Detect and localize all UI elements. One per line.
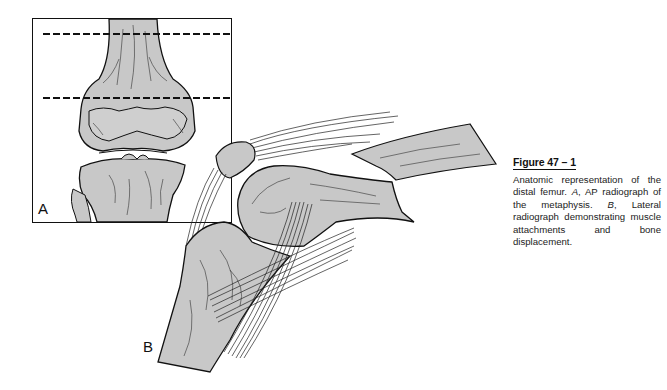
panel-b-label: B xyxy=(143,338,153,355)
caption-text: Anatomic representation of the distal fe… xyxy=(513,174,661,248)
lateral-knee-illustration xyxy=(140,100,500,390)
panel-a-label: A xyxy=(38,200,48,217)
figure-title: Figure 47 – 1 xyxy=(513,156,576,170)
figure-caption: Figure 47 – 1 Anatomic representation of… xyxy=(513,152,661,248)
anatomic-figure: A xyxy=(0,0,480,390)
